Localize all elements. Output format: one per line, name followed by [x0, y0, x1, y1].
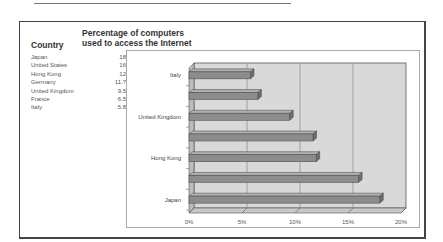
x-tick-label: 5%	[238, 219, 247, 225]
country-cell: Italy	[31, 103, 42, 111]
value-cell: 9.5	[96, 87, 126, 95]
table-row: United Kingdom9.5	[31, 87, 126, 95]
y-category-label: Japan	[165, 197, 181, 203]
table-row: Germany11.7	[31, 78, 126, 86]
bar-top-face	[189, 90, 261, 93]
value-cell: 12	[96, 70, 126, 78]
bar-top-face	[189, 69, 254, 72]
value-cell: 6.5	[96, 95, 126, 103]
y-category-label: Hong Kong	[151, 155, 181, 161]
table-row: France6.5	[31, 95, 126, 103]
bar-france	[189, 93, 258, 100]
chart-box: 0%5%10%15%20%ItalyUnited KingdomHong Kon…	[126, 50, 420, 228]
value-cell: 16	[96, 61, 126, 69]
y-category-label: Italy	[170, 72, 181, 78]
table-row: United States16	[31, 61, 126, 69]
value-cell: 18	[96, 53, 126, 61]
bar-italy	[189, 72, 250, 79]
bar-top-face	[189, 131, 317, 134]
bar-top-face	[189, 193, 383, 196]
table-row: Italy5.8	[31, 103, 126, 111]
country-cell: United Kingdom	[31, 87, 74, 95]
country-cell: Hong Kong	[31, 70, 61, 78]
x-tick-label: 10%	[289, 219, 302, 225]
bar-top-face	[189, 152, 320, 155]
bar-germany	[189, 134, 313, 141]
country-cell: Germany	[31, 78, 56, 86]
bar-hong-kong	[189, 155, 316, 162]
table-row: Hong Kong12	[31, 70, 126, 78]
x-tick-label: 15%	[342, 219, 355, 225]
bar-united-kingdom	[189, 113, 290, 120]
country-column-heading: Country	[31, 41, 64, 51]
bar-chart: 0%5%10%15%20%ItalyUnited KingdomHong Kon…	[127, 51, 419, 227]
value-column-heading: Percentage of computers used to access t…	[82, 29, 192, 48]
bar-top-face	[189, 172, 362, 175]
value-cell: 5.8	[96, 103, 126, 111]
country-cell: United States	[31, 61, 67, 69]
bar-japan	[189, 196, 380, 203]
country-cell: France	[31, 95, 50, 103]
bar-top-face	[189, 110, 293, 113]
country-cell: Japan	[31, 53, 47, 61]
data-table: Japan18United States16Hong Kong12Germany…	[31, 53, 126, 112]
top-rule	[34, 3, 291, 4]
table-row: Japan18	[31, 53, 126, 61]
y-category-label: United Kingdom	[138, 114, 181, 120]
bar-united-states	[189, 175, 359, 182]
value-cell: 11.7	[96, 78, 126, 86]
x-tick-label: 0%	[185, 219, 194, 225]
x-tick-label: 20%	[395, 219, 408, 225]
value-heading-line2: used to access the Internet	[82, 39, 192, 49]
